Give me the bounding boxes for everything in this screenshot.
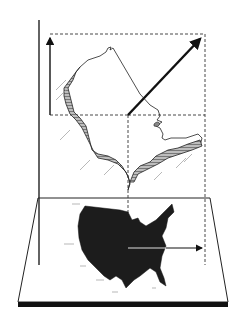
- diagram-canvas: [0, 0, 243, 320]
- coastline-outline: [56, 47, 202, 190]
- diagonal-arrow: [128, 39, 200, 115]
